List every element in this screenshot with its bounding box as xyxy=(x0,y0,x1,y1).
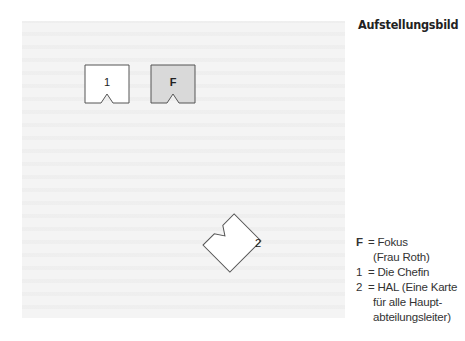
legend-text: abteilungsleiter) xyxy=(373,311,451,323)
legend-text: (Frau Roth) xyxy=(373,251,430,263)
legend-key: 2 xyxy=(356,280,365,295)
legend-text: für alle Haupt- xyxy=(373,296,442,308)
card-2[interactable] xyxy=(203,214,261,272)
legend-item-2-cont: für alle Haupt- xyxy=(356,295,457,310)
legend-sep: = xyxy=(365,236,378,248)
legend: F = Fokus (Frau Roth) 1 = Die Chefin 2 =… xyxy=(356,235,457,325)
legend-item-1: 1 = Die Chefin xyxy=(356,265,457,280)
legend-text: Die Chefin xyxy=(378,266,430,278)
card-f[interactable]: F xyxy=(151,65,195,103)
legend-sep: = xyxy=(365,266,378,278)
legend-item-2: 2 = HAL (Eine Karte xyxy=(356,280,457,295)
legend-sep: = xyxy=(365,281,378,293)
legend-item-2-cont: abteilungsleiter) xyxy=(356,310,457,325)
legend-item-f-cont: (Frau Roth) xyxy=(356,250,457,265)
legend-key: F xyxy=(356,235,365,250)
card-1[interactable]: 1 xyxy=(85,65,129,103)
card-1-label: 1 xyxy=(104,76,110,88)
card-f-label: F xyxy=(170,76,177,88)
card-2-label: 2 xyxy=(255,237,261,249)
legend-text: Fokus xyxy=(378,236,408,248)
legend-text: HAL (Eine Karte xyxy=(378,281,458,293)
diagram-title: Aufstellungsbild xyxy=(358,17,458,32)
card-2-shape xyxy=(203,214,261,272)
legend-item-f: F = Fokus xyxy=(356,235,457,250)
legend-key: 1 xyxy=(356,265,365,280)
